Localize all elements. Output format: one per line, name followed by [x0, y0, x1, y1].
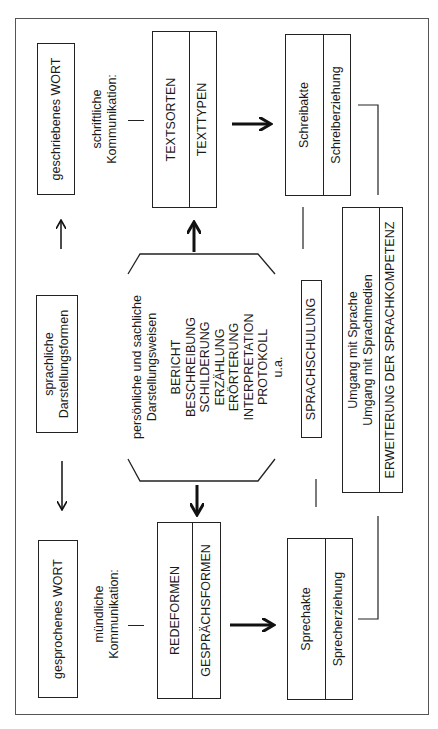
connector-writing-competence	[358, 105, 378, 195]
connector-speaking-competence	[358, 516, 378, 619]
diagram-canvas: geschriebenes WORT schriftliche Kommunik…	[0, 0, 438, 729]
connectors	[0, 0, 438, 729]
